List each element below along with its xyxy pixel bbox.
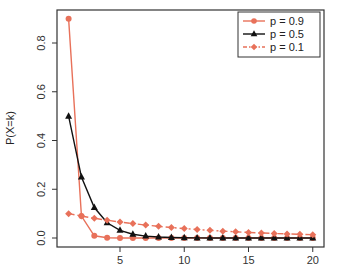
legend-label: p = 0.5 [270, 28, 304, 40]
point-diamond-icon [232, 228, 239, 235]
point-diamond-icon [78, 213, 85, 220]
point-circle-icon [117, 235, 123, 241]
chart-canvas: 0.00.20.40.60.85101520 p = 0.9p = 0.5p =… [0, 0, 341, 279]
point-triangle-icon [65, 112, 72, 119]
y-tick-label: 0.4 [35, 133, 47, 148]
x-tick-label: 20 [307, 254, 319, 266]
point-triangle-icon [91, 204, 98, 211]
point-circle-icon [104, 235, 110, 241]
point-circle-icon [91, 233, 97, 239]
point-diamond-icon [271, 230, 278, 237]
legend: p = 0.9p = 0.5p = 0.1 [238, 12, 320, 57]
x-tick-label: 15 [242, 254, 254, 266]
point-diamond-icon [219, 228, 226, 235]
point-diamond-icon [245, 229, 252, 236]
point-circle-icon [66, 16, 72, 22]
point-circle-icon [251, 18, 257, 24]
point-diamond-icon [129, 220, 136, 227]
y-tick-label: 0.8 [35, 35, 47, 50]
point-diamond-icon [168, 224, 175, 231]
y-tick-label: 0.2 [35, 182, 47, 197]
point-diamond-icon [65, 210, 72, 217]
x-tick-label: 10 [178, 254, 190, 266]
y-tick-label: 0.0 [35, 230, 47, 245]
point-diamond-icon [181, 225, 188, 232]
point-diamond-icon [91, 215, 98, 222]
series-p-0-1 [65, 210, 316, 238]
series-p-0-5 [65, 112, 316, 240]
point-diamond-icon [206, 227, 213, 234]
point-diamond-icon [258, 229, 265, 236]
point-diamond-icon [194, 226, 201, 233]
legend-label: p = 0.9 [270, 15, 304, 27]
point-diamond-icon [155, 223, 162, 230]
y-tick-label: 0.6 [35, 84, 47, 99]
point-diamond-icon [104, 217, 111, 224]
point-diamond-icon [117, 219, 124, 226]
legend-label: p = 0.1 [270, 41, 304, 53]
point-diamond-icon [142, 222, 149, 229]
x-tick-label: 5 [117, 254, 123, 266]
y-axis-title: P(X=k) [4, 111, 16, 145]
